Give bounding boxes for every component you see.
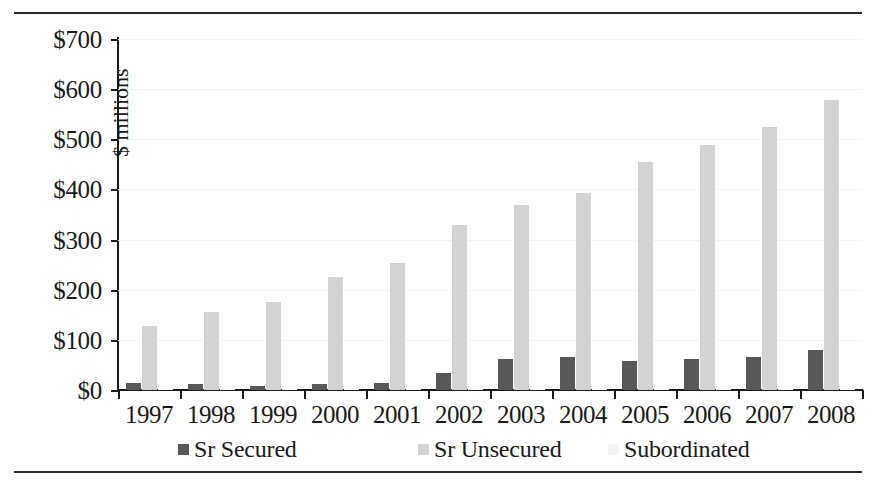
bar-sr-secured-1998 [188,384,203,390]
x-axis-tick [800,390,802,399]
y-axis-tick-label: $0 [78,378,102,403]
bar-sr-unsecured-2002 [452,225,467,390]
y-axis-tick-label: $100 [53,328,102,353]
bar-subordinated-2001 [406,389,421,390]
bar-sr-unsecured-2005 [638,162,653,390]
bar-subordinated-1997 [158,389,173,390]
gridline [118,290,862,291]
legend-swatch-unsecured-icon [418,444,429,455]
legend-swatch-subordinated-icon [608,444,619,455]
bar-sr-secured-2001 [374,383,389,390]
gridline [118,189,862,190]
gridline [118,240,862,241]
chart-legend: Sr SecuredSr UnsecuredSubordinated [118,437,862,467]
bar-subordinated-2003 [530,389,545,390]
bar-subordinated-2008 [840,389,855,390]
y-axis-tick [111,240,118,242]
bar-subordinated-1999 [282,389,297,390]
bar-sr-unsecured-1997 [142,326,157,390]
bar-subordinated-1998 [220,389,235,390]
bar-sr-unsecured-2000 [328,277,343,390]
chart-figure: $0$100$200$300$400$500$600$700 199719981… [0,0,873,489]
bar-sr-unsecured-2001 [390,263,405,390]
gridline [118,340,862,341]
bar-sr-unsecured-1998 [204,312,219,390]
y-axis-title: $ millions [108,68,134,157]
bar-sr-secured-2007 [746,357,761,390]
bar-sr-unsecured-2007 [762,127,777,390]
bar-sr-secured-2000 [312,384,327,390]
bar-subordinated-2007 [778,389,793,390]
x-axis-tick [738,390,740,399]
bar-sr-secured-2002 [436,373,451,390]
legend-label: Subordinated [624,437,750,461]
x-axis-tick [552,390,554,399]
y-axis-tick [111,340,118,342]
bar-sr-secured-2005 [622,361,637,390]
gridline [118,89,862,90]
plot-area: $0$100$200$300$400$500$600$700 199719981… [118,39,862,390]
legend-label: Sr Secured [194,437,297,461]
bar-sr-secured-2003 [498,359,513,390]
legend-item-unsecured[interactable]: Sr Unsecured [418,437,562,461]
bar-subordinated-2002 [468,389,483,390]
bar-subordinated-2006 [716,389,731,390]
bar-subordinated-2000 [344,389,359,390]
x-axis-tick [118,390,120,399]
bar-sr-secured-2004 [560,357,575,390]
bar-subordinated-2005 [654,389,669,390]
x-axis-tick [490,390,492,399]
y-axis-tick-label: $300 [53,228,102,253]
legend-item-subordinated[interactable]: Subordinated [608,437,750,461]
y-axis-tick-label: $200 [53,278,102,303]
x-axis-tick [614,390,616,399]
y-axis-tick [111,39,118,41]
bottom-rule [14,471,862,473]
bar-sr-secured-2008 [808,350,823,390]
bar-sr-secured-2006 [684,359,699,390]
bar-sr-unsecured-1999 [266,302,281,390]
legend-item-secured[interactable]: Sr Secured [178,437,297,461]
x-axis-tick [676,390,678,399]
x-axis-tick [862,390,864,399]
legend-label: Sr Unsecured [434,437,562,461]
x-axis-tick [242,390,244,399]
bar-sr-unsecured-2008 [824,100,839,390]
bar-sr-unsecured-2003 [514,205,529,390]
legend-swatch-secured-icon [178,444,189,455]
y-axis-tick [111,189,118,191]
y-axis-tick-label: $600 [53,77,102,102]
y-axis-tick-label: $400 [53,177,102,202]
gridline [118,139,862,140]
x-axis-tick [304,390,306,399]
y-axis-tick-label: $700 [53,27,102,52]
y-axis-tick [111,290,118,292]
bar-sr-unsecured-2006 [700,145,715,390]
x-axis-tick-label-2008: 2008 [793,402,869,427]
x-axis-tick [428,390,430,399]
gridline [118,39,862,40]
bar-sr-secured-1997 [126,383,141,390]
x-axis-tick [180,390,182,399]
bar-sr-secured-1999 [250,386,265,390]
x-axis-tick [366,390,368,399]
y-axis-tick [111,390,118,392]
y-axis-tick-label: $500 [53,127,102,152]
bar-subordinated-2004 [592,389,607,390]
bar-sr-unsecured-2004 [576,193,591,390]
top-rule [14,12,862,14]
